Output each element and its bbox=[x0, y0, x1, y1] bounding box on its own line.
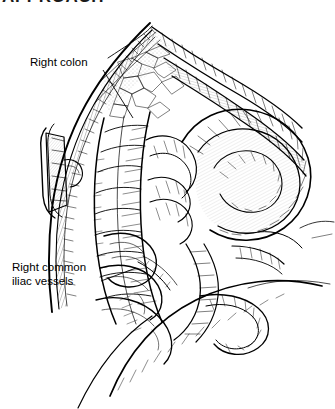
right-colon bbox=[94, 112, 162, 324]
annotation-label-right-colon: Right colon bbox=[30, 56, 88, 70]
small-bowel-loops bbox=[146, 27, 311, 354]
surgical-retractor-clamp bbox=[41, 124, 83, 218]
annotation-label-right-common-iliac-vessels: Right commoniliac vessels bbox=[12, 261, 86, 288]
leader-line-iliac-vessels bbox=[101, 268, 136, 281]
figure-root: APPROACH bbox=[0, 0, 335, 409]
annotation-line-2: iliac vessels bbox=[12, 275, 73, 287]
illustration-ink bbox=[41, 23, 334, 408]
annotation-line-1: Right common bbox=[12, 261, 86, 273]
retracting-hand bbox=[78, 221, 334, 408]
